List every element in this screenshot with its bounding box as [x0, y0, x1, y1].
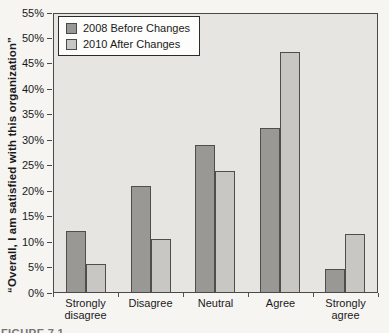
y-tick-mark	[47, 191, 52, 192]
y-tick-label-40%: 40%	[22, 84, 44, 95]
legend-label-2008: 2008 Before Changes	[83, 22, 190, 34]
y-tick-label-35%: 35%	[22, 109, 44, 120]
y-tick-label-5%: 5%	[28, 262, 44, 273]
y-tick-label-10%: 10%	[22, 237, 44, 248]
legend-swatch-2008	[66, 23, 77, 34]
bar-2008-agree	[260, 128, 280, 292]
y-tick-mark	[47, 267, 52, 268]
bar-2010-strongly-agree	[345, 234, 365, 292]
y-tick-mark	[47, 38, 52, 39]
bar-group-strongly-agree	[312, 14, 377, 292]
x-axis-labels: Strongly disagreeDisagreeNeutralAgreeStr…	[53, 297, 378, 321]
bar-2008-strongly-agree	[325, 269, 345, 292]
bar-2008-neutral	[195, 145, 215, 292]
y-tick-mark	[47, 89, 52, 90]
y-tick-label-15%: 15%	[22, 211, 44, 222]
bar-2010-neutral	[215, 171, 235, 292]
bar-2010-disagree	[151, 239, 171, 292]
legend-label-2010: 2010 After Changes	[83, 38, 180, 50]
y-tick-mark	[47, 242, 52, 243]
x-boundary-tick	[248, 293, 249, 297]
figure-page: “Overall, I am satisfied with this organ…	[0, 0, 389, 333]
x-label-disagree: Disagree	[118, 297, 183, 321]
bar-2008-strongly-disagree	[66, 231, 86, 292]
y-axis: 0%5%10%15%20%25%30%35%40%45%50%55%	[0, 13, 53, 293]
bar-2010-agree	[280, 52, 300, 292]
legend: 2008 Before Changes 2010 After Changes	[58, 16, 200, 56]
legend-swatch-2010	[66, 39, 77, 50]
y-tick-mark	[47, 293, 52, 294]
x-label-neutral: Neutral	[183, 297, 248, 321]
y-tick-label-0%: 0%	[28, 288, 44, 299]
x-boundary-tick	[378, 293, 379, 297]
x-label-strongly-agree: Strongly agree	[313, 297, 378, 321]
y-tick-label-50%: 50%	[22, 33, 44, 44]
x-boundary-tick	[53, 293, 54, 297]
x-boundary-tick	[183, 293, 184, 297]
y-tick-mark	[47, 216, 52, 217]
y-tick-mark	[47, 140, 52, 141]
x-label-strongly-disagree: Strongly disagree	[53, 297, 118, 321]
legend-item-2008: 2008 Before Changes	[66, 22, 190, 34]
y-tick-label-55%: 55%	[22, 8, 44, 19]
x-label-agree: Agree	[248, 297, 313, 321]
x-boundary-tick	[313, 293, 314, 297]
y-tick-label-30%: 30%	[22, 135, 44, 146]
y-tick-mark	[47, 63, 52, 64]
bar-group-agree	[248, 14, 313, 292]
x-boundary-tick	[118, 293, 119, 297]
y-tick-mark	[47, 165, 52, 166]
y-tick-label-25%: 25%	[22, 160, 44, 171]
legend-item-2010: 2010 After Changes	[66, 38, 190, 50]
y-tick-label-45%: 45%	[22, 58, 44, 69]
bar-2008-disagree	[131, 186, 151, 292]
y-tick-mark	[47, 114, 52, 115]
y-tick-mark	[47, 13, 52, 14]
y-tick-label-20%: 20%	[22, 186, 44, 197]
bar-2010-strongly-disagree	[86, 264, 106, 292]
clipped-figure-caption: FIGURE 7.1	[1, 327, 201, 333]
